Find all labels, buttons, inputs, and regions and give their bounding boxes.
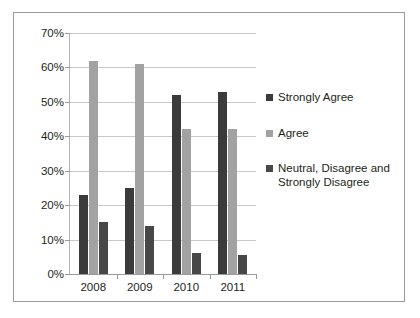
x-axis-separator [210,274,211,279]
legend-swatch-icon [266,94,273,101]
legend-swatch-icon [266,130,273,137]
bar[interactable] [218,92,227,274]
x-axis-tick-label: 2011 [210,281,256,293]
legend-item[interactable]: Neutral, Disagree and Strongly Disagree [266,162,398,189]
y-axis-tick-label: 20% [41,199,64,211]
legend-item-label: Strongly Agree [278,91,398,105]
bar[interactable] [182,129,191,274]
bar[interactable] [172,95,181,274]
y-axis-tick-label: 10% [41,234,64,246]
legend-swatch-icon [266,165,273,172]
chart-plot-wrapper: 70%60%50%40%30%20%10%0% 2008200920102011… [14,13,406,303]
chart-frame: 70%60%50%40%30%20%10%0% 2008200920102011… [13,12,405,302]
bar-group-2008 [79,33,108,274]
legend-item-label: Neutral, Disagree and Strongly Disagree [278,162,398,189]
bar[interactable] [145,226,154,274]
bar[interactable] [192,253,201,274]
chart-legend: Strongly AgreeAgreeNeutral, Disagree and… [266,91,398,211]
x-axis-tick-label: 2010 [163,281,209,293]
x-axis-separator [117,274,118,279]
y-axis-tick-label: 50% [41,96,64,108]
bar[interactable] [79,195,88,274]
legend-item-label: Agree [278,127,398,141]
x-axis-separator [256,274,257,279]
bar[interactable] [89,61,98,274]
y-axis-tick-label: 70% [41,27,64,39]
x-axis-tick-label: 2009 [117,281,163,293]
bar-group-2011 [218,33,247,274]
bar-group-2009 [125,33,154,274]
y-axis: 70%60%50%40%30%20%10%0% [22,13,64,303]
legend-item[interactable]: Strongly Agree [266,91,398,105]
y-axis-tick-label: 40% [41,130,64,142]
bar[interactable] [228,129,237,274]
legend-item[interactable]: Agree [266,127,398,141]
bar[interactable] [125,188,134,274]
y-axis-tick-label: 30% [41,165,64,177]
bar[interactable] [238,255,247,274]
x-axis-separator [163,274,164,279]
y-axis-tick-label: 60% [41,61,64,73]
bar-group-2010 [172,33,201,274]
plot-area [70,33,256,274]
bar[interactable] [135,64,144,274]
scan-artifact [0,0,420,12]
bar[interactable] [99,222,108,274]
y-axis-tick-label: 0% [47,268,64,280]
x-axis-tick-label: 2008 [70,281,116,293]
